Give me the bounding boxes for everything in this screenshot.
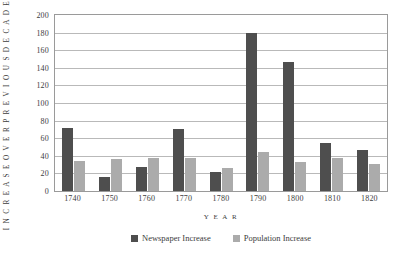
bar	[332, 158, 343, 191]
bar-group	[92, 15, 129, 191]
bar-group	[276, 15, 313, 191]
y-tick-label: 40	[41, 151, 49, 160]
bar-group	[129, 15, 166, 191]
y-tick-label: 60	[41, 134, 49, 143]
bar	[173, 129, 184, 191]
bar	[99, 177, 110, 191]
bar	[258, 152, 269, 191]
legend-label: Newspaper Increase	[142, 233, 211, 243]
y-tick-label: 180	[36, 28, 49, 37]
plot-area	[54, 14, 388, 192]
y-axis-title-label: I N C R E A S E O V E R P R E V I O U S …	[3, 0, 11, 230]
y-tick-label: 200	[36, 11, 49, 20]
y-tick-label: 100	[36, 99, 49, 108]
bar-group	[313, 15, 350, 191]
chart-figure: I N C R E A S E O V E R P R E V I O U S …	[0, 0, 407, 265]
bar	[136, 167, 147, 191]
bar	[210, 172, 221, 191]
bar-group	[350, 15, 387, 191]
x-tick-label: 1780	[202, 194, 239, 206]
x-tick-label: 1740	[54, 194, 91, 206]
legend-entry: Newspaper Increase	[131, 233, 211, 243]
bar-group	[203, 15, 240, 191]
bar-group	[55, 15, 92, 191]
bar-group	[166, 15, 203, 191]
y-tick-label: 0	[45, 187, 49, 196]
bar	[357, 150, 368, 191]
y-axis-tick-labels: 020406080100120140160180200	[16, 14, 52, 192]
legend-label: Population Increase	[244, 233, 311, 243]
y-tick-label: 120	[36, 81, 49, 90]
x-axis-tick-labels: 174017501760177017801790180018101820	[54, 194, 388, 206]
bar	[74, 161, 85, 191]
bar	[148, 158, 159, 191]
bar	[246, 33, 257, 191]
chart-legend: Newspaper IncreasePopulation Increase	[54, 233, 388, 243]
x-tick-label: 1800	[277, 194, 314, 206]
x-tick-label: 1750	[91, 194, 128, 206]
bar	[111, 159, 122, 191]
bar	[369, 164, 380, 191]
y-axis-title: I N C R E A S E O V E R P R E V I O U S …	[0, 0, 14, 205]
y-tick-label: 140	[36, 63, 49, 72]
legend-swatch-icon	[233, 235, 240, 242]
bar	[295, 162, 306, 191]
x-tick-label: 1820	[351, 194, 388, 206]
x-tick-label: 1810	[314, 194, 351, 206]
bar	[283, 62, 294, 191]
bar-groups	[55, 15, 387, 191]
y-tick-label: 80	[41, 116, 49, 125]
y-tick-label: 20	[41, 169, 49, 178]
legend-swatch-icon	[131, 235, 138, 242]
bar	[320, 143, 331, 191]
y-tick-label: 160	[36, 46, 49, 55]
x-tick-label: 1770	[165, 194, 202, 206]
x-tick-label: 1790	[240, 194, 277, 206]
bar	[62, 128, 73, 191]
legend-entry: Population Increase	[233, 233, 311, 243]
bar	[185, 158, 196, 191]
x-axis-title: Y E A R	[54, 213, 388, 221]
bar	[222, 168, 233, 191]
x-tick-label: 1760	[128, 194, 165, 206]
bar-group	[239, 15, 276, 191]
